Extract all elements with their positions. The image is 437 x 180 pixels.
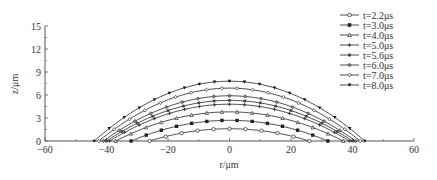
x-tick-label: 20: [286, 144, 296, 155]
y-tick-label: 3: [36, 113, 41, 124]
series-t-4.0-s: [114, 110, 345, 142]
x-tick-label: −40: [99, 144, 115, 155]
axes: −60−40−20020406003691215: [31, 21, 419, 156]
y-tick-label: 0: [36, 136, 41, 147]
plot-area: [93, 80, 367, 143]
legend: t=2.2μst=3.0μst=4.0μst=5.0μst=5.6μst=6.0…: [340, 10, 393, 91]
y-tick-label: 6: [36, 90, 41, 101]
series-t-8.0-s: [93, 80, 367, 143]
y-tick-label: 9: [36, 67, 41, 78]
y-tick-label: 15: [31, 21, 41, 32]
y-axis-label: z/μm: [9, 74, 20, 95]
legend-label: t=8.0μs: [363, 80, 393, 91]
x-tick-label: −20: [160, 144, 176, 155]
chart: −60−40−20020406003691215 t=2.2μst=3.0μst…: [0, 0, 437, 180]
x-axis-label: r/μm: [219, 159, 238, 170]
x-tick-label: 40: [348, 144, 358, 155]
y-tick-label: 12: [31, 44, 41, 55]
x-tick-label: 60: [409, 144, 419, 155]
series-t-5.0-s: [108, 103, 351, 143]
x-tick-label: 0: [227, 144, 232, 155]
legend-item: t=8.0μs: [340, 80, 393, 91]
